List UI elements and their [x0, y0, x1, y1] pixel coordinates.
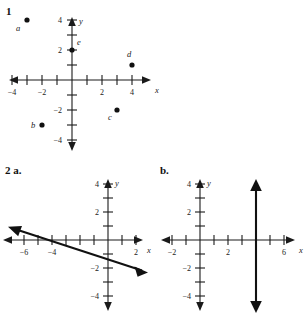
- x-tick-label: −4: [48, 248, 57, 257]
- x-axis: [9, 75, 151, 85]
- x-tick-label: 2: [134, 248, 138, 257]
- y-axis-name: y: [78, 16, 83, 26]
- worksheet-page: 1 2 a. b.: [0, 0, 308, 318]
- y-tick-label: 2: [95, 208, 99, 217]
- point-label: d: [127, 49, 132, 59]
- point-label: b: [31, 120, 35, 130]
- x-axis-name: x: [298, 245, 303, 255]
- y-tick-label: 4: [95, 180, 99, 189]
- y-tick-label: −2: [53, 106, 62, 115]
- y-axis: [67, 17, 77, 151]
- point-label: a: [16, 23, 20, 33]
- vertical-line: [250, 179, 262, 313]
- x-tick-label: −2: [168, 248, 177, 257]
- y-axis-name: y: [114, 178, 119, 188]
- x-tick-label: −4: [8, 88, 17, 97]
- y-tick-label: 2: [187, 208, 191, 217]
- sloped-line: [8, 226, 148, 277]
- y-tick-label: −4: [53, 136, 62, 145]
- x-tick-label: −2: [38, 88, 47, 97]
- x-axis-name: x: [154, 85, 159, 95]
- y-tick-label: −2: [182, 264, 191, 273]
- y-axis-name: y: [206, 178, 211, 188]
- x-tick-label: 4: [130, 88, 134, 97]
- point-label: c: [108, 112, 112, 122]
- y-tick-label: 4: [187, 180, 191, 189]
- y-tick-label: −2: [90, 264, 99, 273]
- x-axis: [161, 235, 295, 245]
- point-label: e: [77, 37, 81, 47]
- x-tick-label: 2: [226, 248, 230, 257]
- graph-2b-vertical-line: x y −2 2 6 4 2 −2 −4: [156, 174, 308, 318]
- plotted-point-b: b: [31, 120, 45, 130]
- x-axis-name: x: [146, 245, 151, 255]
- plotted-point-d: d: [127, 49, 135, 68]
- graph-2a-sloped-line: x y −6 −4 2 4 2 −2 −4: [0, 174, 156, 318]
- x-tick-label: 2: [100, 88, 104, 97]
- y-tick-label: 2: [58, 46, 62, 55]
- y-tick-label: 4: [58, 16, 62, 25]
- x-axis: [3, 235, 143, 245]
- y-axis: [195, 179, 205, 311]
- x-tick-label: 6: [282, 248, 286, 257]
- y-tick-label: −4: [182, 292, 191, 301]
- y-axis: [103, 179, 113, 311]
- plotted-point-a: a: [16, 17, 30, 33]
- x-tick-label: −6: [20, 248, 29, 257]
- graph-1-scatter: x y −4 −2 2 4 4 2 −2 −4 a e d: [0, 8, 180, 160]
- y-tick-label: −4: [90, 292, 99, 301]
- plotted-point-c: c: [108, 107, 119, 122]
